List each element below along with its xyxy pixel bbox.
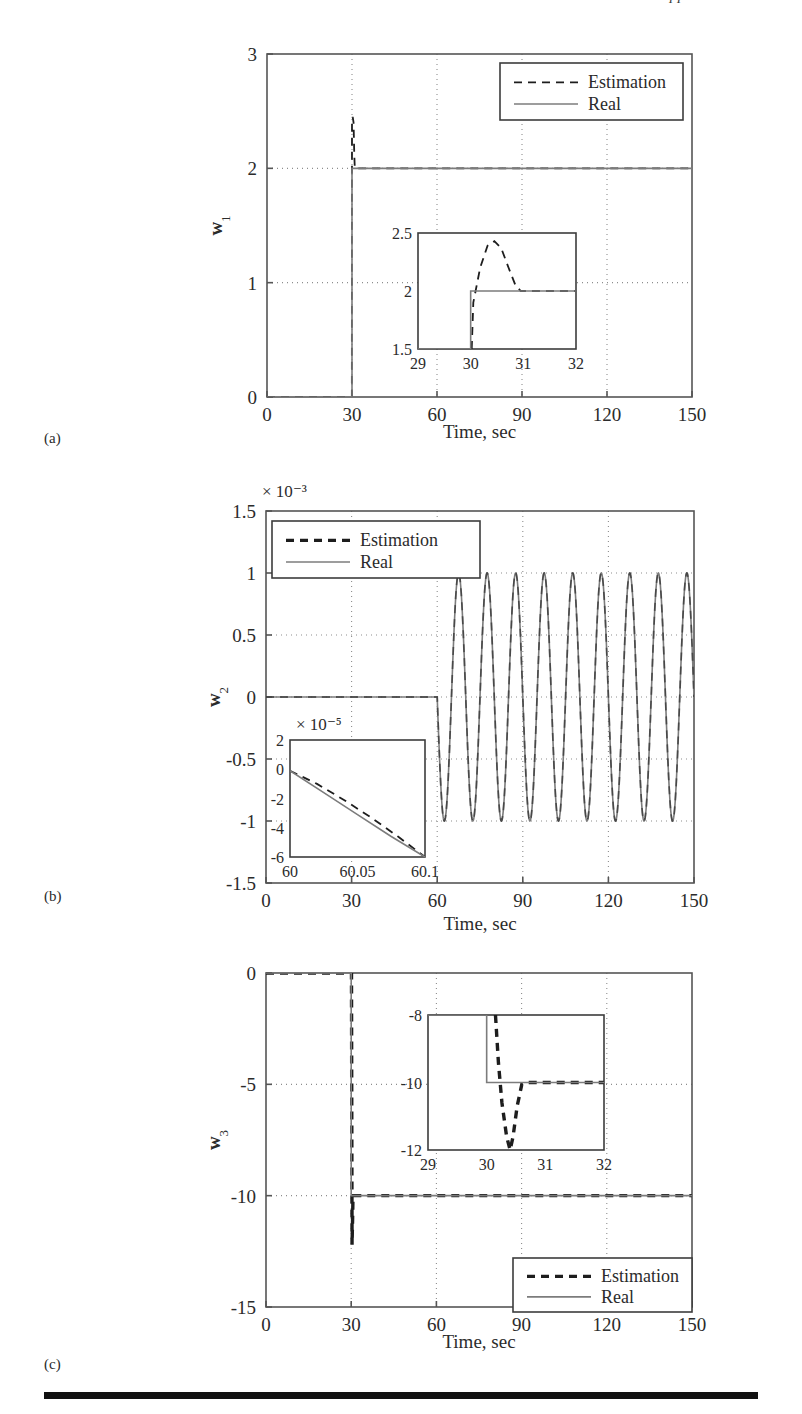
inset-y-tick-label: 2.5: [392, 225, 412, 242]
inset-x-tick-label: 30: [463, 355, 479, 372]
legend-label-real: Real: [360, 552, 393, 572]
inset-y-tick-label: -6: [271, 849, 284, 866]
y-tick-label: -0.5: [226, 749, 256, 770]
inset-x-tick-label: 31: [537, 1156, 553, 1173]
y-tick-label: 0.5: [232, 625, 256, 646]
inset-y-tick-label: -4: [271, 820, 284, 837]
svg-text:w3: w3: [203, 1130, 231, 1150]
y-tick-label: 0: [247, 687, 257, 708]
svg-text:w2: w2: [203, 687, 231, 707]
inset-y-tick-label: -2: [271, 791, 284, 808]
y-tick-label: -15: [231, 1297, 256, 1318]
y-tick-label: 3: [248, 44, 258, 65]
y-tick-label: -1: [240, 811, 256, 832]
inset-y-tick-label: -12: [401, 1142, 422, 1159]
inset-x-tick-label: 60: [282, 863, 298, 880]
inset-chart: 293031321.522.5: [392, 225, 584, 372]
inset-chart: 6060.0560.1-6-4-202× 10⁻⁵: [271, 715, 439, 880]
x-tick-label: 0: [262, 404, 272, 425]
inset-x-tick-label: 32: [596, 1156, 612, 1173]
inset-y-tick-label: -10: [401, 1075, 422, 1092]
x-tick-label: 150: [678, 404, 707, 425]
x-tick-label: 30: [342, 1314, 361, 1335]
y-axis-title: w3: [203, 1130, 231, 1150]
figure-page: Applications 03060901201500123Time, secw…: [0, 0, 802, 1414]
chart-panel-a: 03060901201500123Time, secw1293031321.52…: [0, 26, 802, 466]
x-tick-label: 90: [513, 890, 532, 911]
y-tick-label: 0: [248, 387, 258, 408]
y-tick-label: 1: [247, 563, 257, 584]
x-tick-label: 150: [678, 1314, 707, 1335]
inset-y-tick-label: 1.5: [392, 341, 412, 358]
x-tick-label: 120: [593, 1314, 622, 1335]
x-tick-label: 0: [261, 890, 271, 911]
inset-x-tick-label: 31: [515, 355, 531, 372]
panel-label-a: (a): [44, 430, 61, 447]
x-axis-title: Time, sec: [442, 1331, 515, 1352]
page-bottom-rule: [44, 1392, 758, 1399]
inset-x-tick-label: 60.05: [340, 863, 376, 880]
y-tick-label: -5: [240, 1074, 256, 1095]
inset-x-tick-label: 29: [410, 355, 426, 372]
chart-panel-c: 0306090120150-15-10-50Time, secw32930313…: [0, 944, 802, 1356]
x-tick-label: 60: [428, 890, 447, 911]
svg-text:w1: w1: [205, 215, 233, 235]
chart-legend: EstimationReal: [513, 1258, 692, 1312]
inset-x-tick-label: 32: [568, 355, 584, 372]
x-tick-label: 150: [680, 890, 709, 911]
legend-label-estimation: Estimation: [588, 72, 666, 92]
chart-panel-b: 0306090120150-1.5-1-0.500.511.5× 10⁻³Tim…: [0, 466, 802, 944]
inset-x-tick-label: 60.1: [411, 863, 439, 880]
y-tick-label: 2: [248, 158, 258, 179]
chart-panel-b: 0306090120150-1.5-1-0.500.511.5× 10⁻³Tim…: [0, 466, 802, 944]
y-tick-label: -1.5: [226, 873, 256, 894]
page-header: Applications: [0, 0, 802, 22]
inset-y-tick-label: 0: [276, 761, 284, 778]
x-tick-label: 120: [593, 404, 622, 425]
y-tick-label: -10: [231, 1186, 256, 1207]
legend-label-real: Real: [601, 1287, 634, 1307]
chart-legend: EstimationReal: [500, 63, 683, 120]
panel-label-c: (c): [44, 1356, 61, 1373]
x-tick-label: 120: [594, 890, 623, 911]
y-axis-title: w2: [203, 687, 231, 707]
inset-y-tick-label: -8: [409, 1007, 422, 1024]
y-tick-label: 1: [248, 273, 258, 294]
header-title: Applications: [660, 0, 742, 4]
chart-panel-c: 0306090120150-15-10-50Time, secw32930313…: [0, 944, 802, 1356]
legend-label-real: Real: [588, 94, 621, 114]
inset-exponent-label: × 10⁻⁵: [296, 715, 342, 734]
inset-frame: [290, 740, 425, 857]
axis-exponent-label: × 10⁻³: [262, 482, 307, 501]
chart-legend: EstimationReal: [272, 521, 480, 578]
x-tick-label: 0: [261, 1314, 271, 1335]
inset-x-tick-label: 29: [420, 1156, 436, 1173]
inset-x-tick-label: 30: [479, 1156, 495, 1173]
legend-label-estimation: Estimation: [360, 530, 438, 550]
x-axis-title: Time, sec: [443, 913, 516, 934]
chart-panel-a: 03060901201500123Time, secw1293031321.52…: [0, 26, 802, 466]
legend-label-estimation: Estimation: [601, 1266, 679, 1286]
x-axis-title: Time, sec: [443, 421, 516, 442]
inset-y-tick-label: 2: [404, 283, 412, 300]
y-axis-title: w1: [205, 215, 233, 235]
y-tick-label: 0: [247, 963, 257, 984]
y-tick-label: 1.5: [232, 501, 256, 522]
inset-y-tick-label: 2: [276, 732, 284, 749]
inset-chart: 29303132-12-10-8: [401, 1007, 612, 1173]
x-tick-label: 30: [342, 890, 361, 911]
x-tick-label: 30: [343, 404, 362, 425]
panel-label-b: (b): [44, 888, 62, 905]
